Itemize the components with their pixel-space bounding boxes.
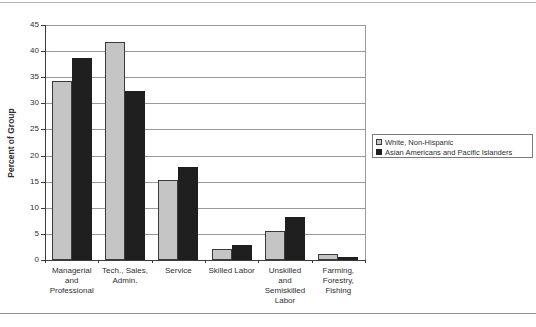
gridline xyxy=(45,103,365,104)
y-tick-mark xyxy=(41,51,45,52)
y-tick-label: 10 xyxy=(17,204,39,212)
scanned-figure-page: Percent of Group 051015202530354045Manag… xyxy=(0,0,536,327)
bar-asian-pacific-3 xyxy=(232,245,252,260)
gridline xyxy=(45,156,365,157)
x-category-label-line: Fishing xyxy=(305,286,372,296)
x-tick-mark xyxy=(152,260,153,263)
y-tick-label: 30 xyxy=(17,99,39,107)
bar-white-nonhispanic-4 xyxy=(265,231,285,260)
bottom-horizontal-rule xyxy=(0,313,536,314)
bar-white-nonhispanic-1 xyxy=(105,42,125,260)
x-tick-mark xyxy=(258,260,259,263)
legend-entry: White, Non-Hispanic xyxy=(376,137,530,147)
x-tick-mark xyxy=(45,260,46,263)
gridline xyxy=(45,234,365,235)
bar-white-nonhispanic-3 xyxy=(212,249,232,260)
x-category-label-line: Forestry, xyxy=(305,276,372,286)
y-tick-label: 35 xyxy=(17,73,39,81)
y-tick-label: 40 xyxy=(17,47,39,55)
x-tick-mark xyxy=(312,260,313,263)
bar-asian-pacific-0 xyxy=(72,58,92,260)
y-tick-mark xyxy=(41,77,45,78)
occupation-bar-chart: Percent of Group 051015202530354045Manag… xyxy=(0,0,536,327)
x-tick-mark xyxy=(205,260,206,263)
y-tick-label: 0 xyxy=(17,256,39,264)
y-tick-label: 25 xyxy=(17,125,39,133)
gridline xyxy=(45,77,365,78)
y-tick-label: 20 xyxy=(17,152,39,160)
x-category-label-line: Farming, xyxy=(305,266,372,276)
bar-asian-pacific-4 xyxy=(285,217,305,260)
legend-entry: Asian Americans and Pacific Islanders xyxy=(376,147,530,157)
y-tick-label: 15 xyxy=(17,178,39,186)
gridline xyxy=(45,51,365,52)
x-tick-mark xyxy=(365,260,366,263)
y-tick-mark xyxy=(41,25,45,26)
y-tick-mark xyxy=(41,103,45,104)
y-tick-mark xyxy=(41,234,45,235)
bar-asian-pacific-2 xyxy=(178,167,198,260)
y-axis-title: Percent of Group xyxy=(6,108,16,177)
y-axis-line xyxy=(45,25,46,261)
y-tick-label: 5 xyxy=(17,230,39,238)
legend-label: Asian Americans and Pacific Islanders xyxy=(385,148,512,157)
bar-white-nonhispanic-2 xyxy=(158,180,178,260)
x-tick-mark xyxy=(98,260,99,263)
legend-marker-icon xyxy=(376,149,382,155)
x-category-label-5: Farming,Forestry,Fishing xyxy=(305,266,372,296)
gridline xyxy=(45,208,365,209)
x-category-label-line: Labor xyxy=(251,296,318,306)
plot-border-right xyxy=(365,25,366,260)
plot-border-top xyxy=(45,25,365,26)
legend: White, Non-HispanicAsian Americans and P… xyxy=(372,134,533,158)
legend-marker-icon xyxy=(376,139,382,145)
y-tick-mark xyxy=(41,156,45,157)
legend-label: White, Non-Hispanic xyxy=(385,138,453,147)
x-category-label-line: Admin. xyxy=(91,276,158,286)
y-tick-mark xyxy=(41,208,45,209)
x-category-label-line: Professional xyxy=(38,286,105,296)
gridline xyxy=(45,129,365,130)
bar-asian-pacific-1 xyxy=(125,91,145,260)
bar-white-nonhispanic-0 xyxy=(52,81,72,260)
gridline xyxy=(45,182,365,183)
y-tick-mark xyxy=(41,129,45,130)
y-tick-label: 45 xyxy=(17,21,39,29)
y-tick-mark xyxy=(41,182,45,183)
